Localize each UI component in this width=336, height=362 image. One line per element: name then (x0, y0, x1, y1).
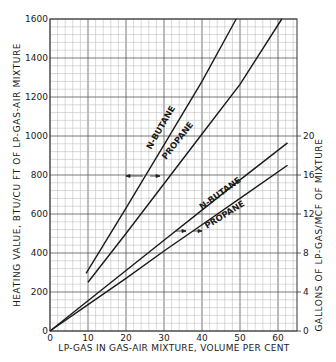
x-axis-title: LP-GAS IN GAS-AIR MIXTURE, VOLUME PER CE… (58, 343, 290, 353)
y2-tick-label: 12 (303, 209, 314, 219)
y2-tick-label: 8 (303, 248, 309, 258)
series-line-propane-left (88, 19, 282, 282)
x-tick-label: 30 (158, 333, 170, 343)
y2-tick-label: 16 (303, 170, 315, 180)
series-line-n-butane-right (50, 143, 288, 331)
y2-tick-label: 20 (303, 131, 315, 141)
x-tick-label: 50 (234, 333, 246, 343)
y-tick-label: 800 (31, 170, 48, 180)
x-tick-label: 40 (196, 333, 208, 343)
y2-tick-label: 0 (303, 326, 309, 336)
series-line-propane-right (50, 165, 288, 331)
y2-axis-title: GALLONS OF LP-GAS/MCF OF MIXTURE (314, 139, 324, 332)
y-tick-label: 1400 (25, 53, 48, 63)
x-tick-label: 0 (47, 333, 53, 343)
y-tick-label: 1600 (25, 14, 48, 24)
grid (50, 19, 297, 331)
x-tick-label: 60 (272, 333, 284, 343)
y-tick-label: 1200 (25, 92, 48, 102)
axis-ticks: 0102030405060020040060080010001200140016… (25, 14, 315, 343)
x-tick-label: 20 (120, 333, 132, 343)
y-tick-label: 0 (42, 326, 48, 336)
series-line-n-butane-left (86, 19, 236, 273)
y2-tick-label: 4 (303, 287, 309, 297)
y-tick-label: 600 (31, 209, 48, 219)
y-axis-title: HEATING VALUE, BTU/CU FT OF LP-GAS-AIR M… (12, 43, 22, 307)
x-tick-label: 10 (82, 333, 94, 343)
arrow-right-axis-indicator (176, 230, 202, 233)
y-tick-label: 1000 (25, 131, 48, 141)
y-tick-label: 200 (31, 287, 48, 297)
y-tick-label: 400 (31, 248, 48, 258)
heating-value-chart: 0102030405060020040060080010001200140016… (0, 0, 336, 362)
